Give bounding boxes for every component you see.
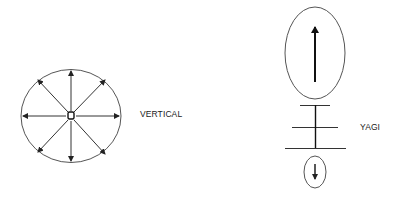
vertical-pattern — [21, 70, 121, 163]
arrow-se-icon — [74, 120, 105, 154]
arrow-ne-icon — [74, 80, 105, 112]
antenna-pattern-diagram — [0, 0, 402, 198]
yagi-label: YAGI — [360, 122, 380, 132]
arrow-nw-icon — [38, 80, 68, 112]
yagi-pattern — [285, 7, 346, 188]
arrow-sw-icon — [38, 120, 68, 152]
vertical-antenna-icon — [68, 112, 74, 119]
yagi-antenna-icon — [285, 105, 346, 149]
vertical-label: VERTICAL — [140, 109, 182, 119]
